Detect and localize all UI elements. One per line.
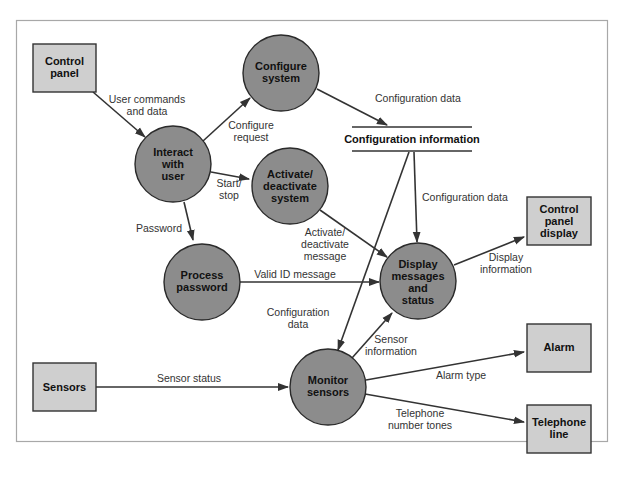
svg-text:stop: stop bbox=[219, 189, 239, 201]
svg-text:number tones: number tones bbox=[388, 419, 452, 431]
svg-text:data: data bbox=[288, 318, 309, 330]
external-control-panel-display[interactable]: Control panel display bbox=[527, 197, 591, 245]
process-configure-system[interactable]: Configure system bbox=[243, 35, 319, 111]
svg-text:Sensors: Sensors bbox=[43, 381, 86, 393]
svg-text:message: message bbox=[304, 250, 347, 262]
svg-text:Process: Process bbox=[181, 269, 224, 281]
process-process-password[interactable]: Process password bbox=[164, 244, 240, 320]
svg-text:Control: Control bbox=[539, 203, 578, 215]
svg-text:Interact: Interact bbox=[153, 146, 193, 158]
svg-text:Configuration: Configuration bbox=[267, 306, 330, 318]
store-label: Configuration information bbox=[344, 133, 480, 145]
svg-text:User commands: User commands bbox=[109, 93, 185, 105]
svg-text:user: user bbox=[161, 170, 185, 182]
svg-text:Control: Control bbox=[45, 55, 84, 67]
svg-text:Configuration data: Configuration data bbox=[422, 191, 508, 203]
svg-text:status: status bbox=[402, 294, 434, 306]
svg-text:messages: messages bbox=[391, 270, 444, 282]
svg-text:Sensor: Sensor bbox=[374, 333, 408, 345]
svg-text:with: with bbox=[161, 158, 184, 170]
svg-text:request: request bbox=[233, 131, 268, 143]
data-flow-diagram: Configuration information Control panel … bbox=[0, 0, 622, 483]
svg-text:Configure: Configure bbox=[255, 60, 307, 72]
svg-text:password: password bbox=[176, 281, 227, 293]
svg-text:Activate/: Activate/ bbox=[267, 168, 313, 180]
svg-text:Sensor status: Sensor status bbox=[157, 372, 221, 384]
svg-text:Start/: Start/ bbox=[216, 177, 241, 189]
external-telephone-line[interactable]: Telephone line bbox=[527, 405, 591, 453]
svg-text:Valid ID message: Valid ID message bbox=[254, 268, 336, 280]
external-sensors[interactable]: Sensors bbox=[33, 363, 96, 411]
svg-text:display: display bbox=[540, 227, 579, 239]
svg-text:Configuration data: Configuration data bbox=[375, 92, 461, 104]
svg-text:information: information bbox=[480, 263, 532, 275]
svg-text:Password: Password bbox=[136, 222, 182, 234]
svg-text:Display: Display bbox=[489, 251, 524, 263]
process-activate-deactivate-system[interactable]: Activate/ deactivate system bbox=[252, 148, 328, 224]
svg-text:and: and bbox=[408, 282, 428, 294]
svg-text:Alarm type: Alarm type bbox=[436, 369, 486, 381]
svg-text:Telephone: Telephone bbox=[396, 407, 445, 419]
svg-text:Configure: Configure bbox=[228, 119, 274, 131]
svg-text:Activate/: Activate/ bbox=[305, 226, 345, 238]
external-alarm[interactable]: Alarm bbox=[527, 324, 591, 372]
svg-text:Telephone: Telephone bbox=[532, 416, 586, 428]
svg-text:Display: Display bbox=[398, 258, 438, 270]
svg-text:deactivate: deactivate bbox=[263, 180, 317, 192]
process-display-messages-and-status[interactable]: Display messages and status bbox=[380, 243, 456, 319]
svg-text:panel: panel bbox=[545, 215, 574, 227]
svg-text:Monitor: Monitor bbox=[308, 374, 349, 386]
svg-text:information: information bbox=[365, 345, 417, 357]
process-interact-with-user[interactable]: Interact with user bbox=[135, 126, 211, 202]
svg-text:system: system bbox=[271, 192, 309, 204]
svg-text:sensors: sensors bbox=[307, 386, 349, 398]
svg-text:and data: and data bbox=[127, 105, 168, 117]
svg-text:deactivate: deactivate bbox=[301, 238, 349, 250]
svg-text:Alarm: Alarm bbox=[543, 341, 574, 353]
svg-text:line: line bbox=[550, 428, 569, 440]
svg-text:panel: panel bbox=[50, 67, 79, 79]
svg-text:system: system bbox=[262, 72, 300, 84]
process-monitor-sensors[interactable]: Monitor sensors bbox=[290, 349, 366, 425]
external-control-panel[interactable]: Control panel bbox=[33, 44, 96, 92]
